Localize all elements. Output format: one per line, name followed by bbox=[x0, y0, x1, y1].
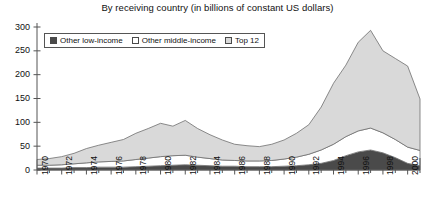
y-axis-tick-label: 150 bbox=[4, 94, 30, 103]
legend-swatch-other-middle-income bbox=[132, 37, 139, 44]
x-axis-tick-label: 1980 bbox=[164, 156, 173, 175]
x-axis-tick-label: 1998 bbox=[386, 156, 395, 175]
x-axis-tick-label: 1994 bbox=[337, 156, 346, 175]
x-axis-tick-label: 1984 bbox=[213, 156, 222, 175]
legend-item-other-middle-income[interactable]: Other middle-income bbox=[132, 37, 216, 45]
x-axis-tick-label: 1988 bbox=[263, 156, 272, 175]
x-axis-tick-label: 1986 bbox=[238, 156, 247, 175]
x-axis-tick-label: 1970 bbox=[41, 156, 50, 175]
x-axis-tick-label: 1976 bbox=[115, 156, 124, 175]
x-axis-tick-label: 1974 bbox=[90, 156, 99, 175]
legend-label-other-middle-income: Other middle-income bbox=[142, 37, 216, 45]
legend-item-top-12[interactable]: Top 12 bbox=[225, 37, 259, 45]
y-axis-tick-label: 50 bbox=[4, 142, 30, 151]
y-axis-tick-label: 100 bbox=[4, 118, 30, 127]
legend-swatch-top-12 bbox=[225, 37, 232, 44]
x-axis-tick-label: 1978 bbox=[139, 156, 148, 175]
legend-label-top-12: Top 12 bbox=[235, 37, 259, 45]
x-axis-tick-label: 2000 bbox=[411, 156, 420, 175]
y-axis-tick-label: 200 bbox=[4, 70, 30, 79]
y-axis-tick-label: 300 bbox=[4, 23, 30, 32]
legend-label-other-low-income: Other low-income bbox=[60, 37, 123, 45]
legend-item-other-low-income[interactable]: Other low-income bbox=[50, 37, 123, 45]
chart-container: By receiving country (in billions of con… bbox=[0, 0, 435, 209]
y-axis-tick-label: 250 bbox=[4, 46, 30, 55]
legend-swatch-other-low-income bbox=[50, 37, 57, 44]
x-axis-tick-label: 1990 bbox=[288, 156, 297, 175]
x-axis-tick-label: 1992 bbox=[312, 156, 321, 175]
chart-legend: Other low-income Other middle-income Top… bbox=[44, 33, 265, 48]
y-axis-tick-label: 0 bbox=[4, 166, 30, 175]
x-axis-tick-label: 1982 bbox=[189, 156, 198, 175]
x-axis-tick-label: 1996 bbox=[362, 156, 371, 175]
chart-plot-area bbox=[0, 0, 435, 209]
x-axis-tick-label: 1972 bbox=[65, 156, 74, 175]
